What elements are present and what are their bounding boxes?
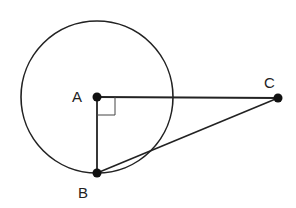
label-A: A bbox=[72, 88, 82, 105]
label-C: C bbox=[264, 74, 275, 91]
geometry-diagram: A B C bbox=[0, 0, 296, 208]
label-B: B bbox=[78, 184, 88, 201]
point-A bbox=[93, 93, 102, 102]
segment-AC bbox=[97, 97, 278, 98]
segment-BC bbox=[97, 98, 278, 173]
point-B bbox=[93, 169, 102, 178]
point-C bbox=[274, 94, 283, 103]
